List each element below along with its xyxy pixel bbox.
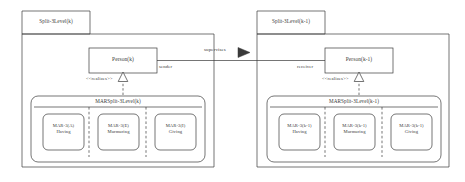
right-mar-partition-3-label: MAR-3(k-1) Giving xyxy=(399,123,423,134)
right-inner-package-label: MARSplit-3Level(k-1) xyxy=(329,99,379,104)
left-mar-partition-2-code: MAR-3(E) xyxy=(108,123,129,128)
left-mar-partition-3-label: MAR-3(I) Giving xyxy=(166,123,186,134)
left-association-role-label: sender xyxy=(159,64,172,69)
right-mar-partition-2-code: MAR-3(k-1) xyxy=(342,123,366,128)
right-mar-partition-2-label: MAR-3(k-1) Murmuring xyxy=(342,123,366,134)
supervises-arrowhead xyxy=(238,48,250,58)
right-mar-partition-2-name: Murmuring xyxy=(342,129,366,135)
right-realization-stereotype-label: <<realizes>> xyxy=(322,76,349,81)
right-mar-partition-1-name: Having xyxy=(287,129,311,135)
right-person-class-label: Person(k-1) xyxy=(346,57,373,63)
left-mar-partition-1-code: MAR-3(A) xyxy=(53,123,74,128)
supervises-association-label: supervises xyxy=(204,47,226,52)
right-package-tab-label: Split-3Level(k-1) xyxy=(272,19,310,24)
left-mar-partition-3-code: MAR-3(I) xyxy=(166,123,186,128)
right-association-role-label: receiver xyxy=(297,64,313,69)
right-mar-partition-3-code: MAR-3(k-1) xyxy=(399,123,423,128)
diagram-vector-layer xyxy=(0,0,465,182)
left-mar-partition-2-name: Murmuring xyxy=(107,129,129,135)
diagram-canvas: Split-3Level(k) Person(k) sender <<reali… xyxy=(0,0,465,182)
left-mar-partition-1-label: MAR-3(A) Having xyxy=(53,123,74,134)
left-inner-package-label: MARSplit-3Level(k) xyxy=(95,99,141,104)
left-package-tab-label: Split-3Level(k) xyxy=(39,19,72,24)
left-realization-triangle xyxy=(118,72,128,82)
right-mar-partition-1-code: MAR-3(k-1) xyxy=(287,123,311,128)
right-mar-partition-3-name: Giving xyxy=(399,129,423,135)
right-mar-partition-1-label: MAR-3(k-1) Having xyxy=(287,123,311,134)
left-realization-stereotype-label: <<realizes>> xyxy=(86,76,113,81)
right-realization-triangle xyxy=(354,72,364,82)
left-person-class-label: Person(k) xyxy=(112,57,134,63)
left-mar-partition-3-name: Giving xyxy=(166,129,186,135)
left-mar-partition-1-name: Having xyxy=(53,129,74,135)
left-mar-partition-2-label: MAR-3(E) Murmuring xyxy=(107,123,129,134)
